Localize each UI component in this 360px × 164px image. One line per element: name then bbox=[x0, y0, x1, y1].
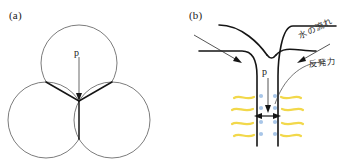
squiggle-left-3 bbox=[232, 123, 253, 125]
p-leader-arrow-b bbox=[265, 78, 271, 113]
figure-root: (a) p bbox=[0, 0, 360, 164]
repulsion-arrow-head-left bbox=[254, 113, 262, 119]
dot-right-4 bbox=[273, 132, 277, 136]
panel-label-b: (b) bbox=[189, 9, 202, 21]
squiggle-right-4 bbox=[281, 135, 301, 137]
squiggles-right bbox=[281, 97, 303, 137]
flow-arrow-right-head bbox=[297, 56, 306, 63]
dot-left-1 bbox=[259, 94, 263, 98]
circle-bottom-right bbox=[74, 82, 150, 158]
p-leader-head-b bbox=[265, 105, 271, 113]
panel-a-drawing bbox=[0, 0, 180, 164]
channel-walls bbox=[199, 25, 336, 146]
annotation-repulsive-force: 反発力 bbox=[308, 55, 337, 69]
panel-label-a: (a) bbox=[9, 9, 22, 21]
point-label-p-a: p bbox=[74, 47, 79, 58]
dot-right-1 bbox=[273, 94, 277, 98]
squiggle-left-1 bbox=[234, 97, 254, 99]
dot-left-4 bbox=[259, 132, 263, 136]
repulsion-arrow-head-right bbox=[273, 113, 281, 119]
repulsion-double-arrow bbox=[254, 113, 281, 119]
flow-arrow-left-shaft bbox=[194, 35, 237, 60]
wedge-apex bbox=[267, 55, 276, 58]
squiggle-right-1 bbox=[281, 97, 301, 99]
panel-a: (a) p bbox=[0, 0, 180, 164]
dot-left-2 bbox=[259, 106, 263, 110]
squiggles-left bbox=[232, 97, 254, 137]
circle-bottom-left bbox=[8, 82, 84, 158]
panel-b: (b) p 水の流れ 反発力 bbox=[180, 0, 360, 164]
squiggle-left-4 bbox=[234, 135, 254, 137]
wall-outer-right bbox=[278, 26, 336, 146]
squiggle-right-3 bbox=[282, 123, 303, 125]
flow-arrow-left-head bbox=[233, 56, 242, 63]
dot-left-3 bbox=[259, 120, 263, 124]
dot-right-3 bbox=[273, 120, 277, 124]
point-label-p-b: p bbox=[262, 66, 267, 77]
wedge-right-edge bbox=[276, 49, 316, 55]
squiggle-left-2 bbox=[232, 109, 253, 111]
squiggle-right-2 bbox=[282, 109, 303, 111]
dot-right-2 bbox=[273, 106, 277, 110]
